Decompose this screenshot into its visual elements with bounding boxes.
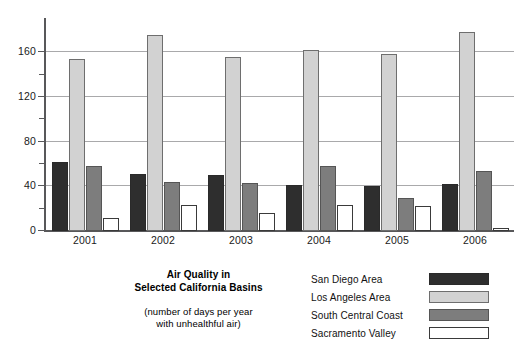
- chart-figure: 04080120160 200120022003200420052006 Air…: [0, 0, 521, 354]
- y-tick-label-wrap: 40: [0, 179, 36, 191]
- legend-item-3: Sacramento Valley: [311, 324, 496, 342]
- y-tick-major-80: [38, 141, 46, 142]
- bar-group-2005: [358, 18, 436, 231]
- bar-2005-la: [381, 54, 397, 231]
- y-tick-label-80: 80: [6, 135, 36, 147]
- bar-2006-la: [459, 32, 475, 231]
- legend-item-1: Los Angeles Area: [311, 288, 496, 306]
- y-tick-label-40: 40: [6, 179, 36, 191]
- bar-2005-sd: [364, 186, 380, 231]
- legend-label-0: San Diego Area: [311, 274, 382, 285]
- plot-area: 04080120160 200120022003200420052006: [0, 0, 521, 250]
- bar-2001-sd: [52, 162, 68, 231]
- chart-legend: San Diego AreaLos Angeles AreaSouth Cent…: [311, 270, 496, 342]
- bar-group-2001: [46, 18, 124, 231]
- legend-label-2: South Central Coast: [311, 310, 403, 321]
- y-tick-major-160: [38, 51, 46, 52]
- y-tick-major-0: [38, 230, 46, 231]
- chart-title-line-1: Air Quality in: [96, 268, 301, 281]
- y-tick-label-wrap: 160: [0, 45, 36, 57]
- y-tick-label-wrap: 120: [0, 90, 36, 102]
- y-tick-label-wrap: 0: [0, 224, 36, 236]
- bar-2006-sd: [442, 184, 458, 231]
- y-tick-minor-20: [39, 208, 45, 209]
- legend-label-3: Sacramento Valley: [311, 328, 396, 339]
- bar-2003-sv: [259, 213, 275, 231]
- legend-swatch-2: [429, 309, 489, 321]
- bar-2004-sc: [320, 166, 336, 231]
- bar-groups: [46, 18, 514, 231]
- bar-2002-sd: [130, 174, 146, 231]
- x-tick-label-2004: 2004: [280, 234, 358, 246]
- y-tick-major-120: [38, 96, 46, 97]
- x-tick-label-2001: 2001: [46, 234, 124, 246]
- chart-caption: Air Quality in Selected California Basin…: [96, 268, 301, 330]
- x-tick-label-2005: 2005: [358, 234, 436, 246]
- chart-title: Air Quality in Selected California Basin…: [96, 268, 301, 294]
- bar-2005-sv: [415, 206, 431, 231]
- legend-item-2: South Central Coast: [311, 306, 496, 324]
- legend-label-1: Los Angeles Area: [311, 292, 390, 303]
- legend-swatch-0: [429, 273, 489, 285]
- chart-subtitle: (number of days per year with unhealthfu…: [96, 306, 301, 330]
- y-tick-label-160: 160: [6, 45, 36, 57]
- bar-2003-sc: [242, 183, 258, 231]
- chart-title-line-2: Selected California Basins: [96, 281, 301, 294]
- chart-subtitle-line-1: (number of days per year: [96, 306, 301, 318]
- bar-2003-la: [225, 57, 241, 231]
- bar-2001-sc: [86, 166, 102, 231]
- chart-subtitle-line-2: with unhealthful air): [96, 318, 301, 330]
- bar-2006-sv: [493, 228, 509, 231]
- x-tick-label-2002: 2002: [124, 234, 202, 246]
- bar-2001-la: [69, 59, 85, 231]
- x-tick-label-2006: 2006: [436, 234, 514, 246]
- bar-2004-sv: [337, 205, 353, 231]
- y-tick-minor-60: [39, 163, 45, 164]
- bar-group-2003: [202, 18, 280, 231]
- y-tick-major-40: [38, 185, 46, 186]
- y-tick-minor-100: [39, 118, 45, 119]
- bar-2004-sd: [286, 185, 302, 231]
- bar-group-2004: [280, 18, 358, 231]
- bar-2005-sc: [398, 198, 414, 231]
- bar-2002-la: [147, 35, 163, 231]
- bar-2002-sv: [181, 205, 197, 231]
- bar-group-2002: [124, 18, 202, 231]
- y-tick-minor-140: [39, 74, 45, 75]
- bar-2002-sc: [164, 182, 180, 231]
- bar-2006-sc: [476, 171, 492, 231]
- y-tick-label-0: 0: [6, 224, 36, 236]
- y-tick-label-120: 120: [6, 90, 36, 102]
- bar-2003-sd: [208, 175, 224, 231]
- y-tick-label-wrap: 80: [0, 135, 36, 147]
- legend-swatch-3: [429, 327, 489, 339]
- x-tick-label-2003: 2003: [202, 234, 280, 246]
- bar-group-2006: [436, 18, 514, 231]
- bar-2004-la: [303, 50, 319, 231]
- legend-item-0: San Diego Area: [311, 270, 496, 288]
- legend-swatch-1: [429, 291, 489, 303]
- bar-2001-sv: [103, 218, 119, 231]
